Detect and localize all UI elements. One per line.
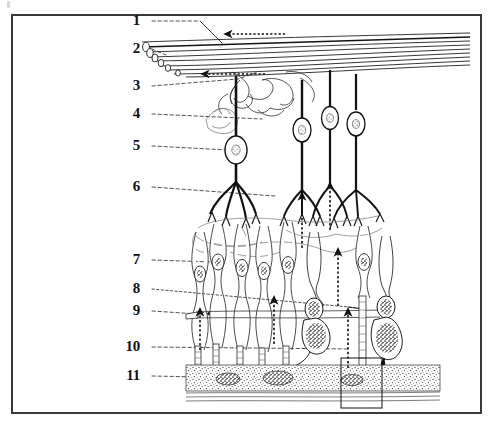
label-5: 5 [126,138,140,153]
glial-cell-outline [206,108,237,133]
nerve-fibre-layer [142,33,470,77]
retina-diagram [0,0,495,423]
figure-canvas: 1 2 3 4 5 6 7 8 9 10 11 [0,0,495,423]
ganglion-cell-d [330,74,384,228]
label-7: 7 [126,252,140,267]
cone-cell-right [371,236,402,368]
bipolar-cell-column [192,222,372,352]
epithelial-nucleus [263,371,293,385]
bipolar-cell [280,222,296,350]
cone-cell-left [294,232,330,366]
label-6: 6 [126,179,140,194]
label-8: 8 [126,281,140,296]
label-9: 9 [126,303,140,318]
bruchs-membrane [186,392,440,401]
bipolar-cell [356,226,372,298]
ganglion-axon-plexus [219,71,315,116]
ganglion-cell-c [309,70,351,226]
label-4: 4 [126,106,140,121]
epithelial-nucleus [216,373,240,385]
ganglion-cells [208,70,384,228]
inner-plexiform-web [193,216,382,257]
pigment-epithelium [186,365,440,401]
label-11: 11 [118,368,140,383]
bipolar-cell [210,224,226,348]
bipolar-cell [234,224,250,350]
epithelial-nucleus [341,375,363,386]
rod-outer-segment-long [359,296,366,368]
label-2: 2 [126,41,140,56]
label-3: 3 [126,78,140,93]
cut-axon-ends [143,42,181,76]
leader-5 [152,146,228,150]
label-10: 10 [118,339,140,354]
bipolar-cell [192,232,208,350]
leader-8 [152,289,360,308]
label-1: 1 [126,13,140,28]
leader-6 [152,187,275,196]
bipolar-cell [256,226,272,352]
